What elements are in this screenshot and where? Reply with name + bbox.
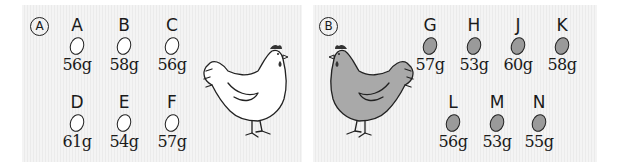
egg-weight: 61g	[55, 133, 99, 151]
brown-egg-icon	[489, 113, 505, 133]
brown-egg-icon	[422, 36, 438, 56]
white-egg-icon	[164, 36, 180, 56]
white-hen-icon	[196, 41, 296, 141]
egg-item: H 53g	[452, 17, 496, 74]
egg-letter: J	[496, 17, 540, 35]
egg-letter: A	[55, 17, 99, 35]
white-egg-icon	[69, 113, 85, 133]
egg-letter: C	[150, 17, 194, 35]
egg-item: L 56g	[431, 94, 475, 151]
egg-letter: B	[102, 17, 146, 35]
egg-letter: G	[408, 17, 452, 35]
egg-letter: L	[431, 94, 475, 112]
panel-b: B G 57g H 53g J 60g K 58g L 56g	[313, 5, 597, 162]
panel-a: A A 56g B 58g C 56g D 61g E 54g F 57g	[22, 5, 302, 162]
brown-egg-icon	[510, 36, 526, 56]
brown-egg-icon	[531, 113, 547, 133]
egg-item: N 55g	[517, 94, 561, 151]
egg-item: M 53g	[475, 94, 519, 151]
egg-weight: 54g	[102, 133, 146, 151]
egg-item: C 56g	[150, 17, 194, 74]
egg-weight: 56g	[431, 133, 475, 151]
white-egg-icon	[116, 36, 132, 56]
white-egg-icon	[69, 36, 85, 56]
gray-hen-icon	[321, 41, 421, 141]
egg-item: K 58g	[540, 17, 584, 74]
egg-item: B 58g	[102, 17, 146, 74]
egg-letter: F	[150, 94, 194, 112]
egg-weight: 53g	[475, 133, 519, 151]
egg-weight: 53g	[452, 56, 496, 74]
egg-item: D 61g	[55, 94, 99, 151]
egg-item: F 57g	[150, 94, 194, 151]
brown-egg-icon	[466, 36, 482, 56]
egg-letter: N	[517, 94, 561, 112]
egg-weight: 57g	[150, 133, 194, 151]
brown-egg-icon	[445, 113, 461, 133]
egg-weight: 55g	[517, 133, 561, 151]
brown-egg-icon	[554, 36, 570, 56]
egg-letter: K	[540, 17, 584, 35]
egg-letter: D	[55, 94, 99, 112]
egg-letter: H	[452, 17, 496, 35]
egg-weight: 57g	[408, 56, 452, 74]
panel-b-label: B	[319, 17, 338, 36]
egg-letter: M	[475, 94, 519, 112]
egg-item: J 60g	[496, 17, 540, 74]
egg-weight: 60g	[496, 56, 540, 74]
egg-weight: 58g	[102, 56, 146, 74]
egg-weight: 56g	[150, 56, 194, 74]
egg-item: A 56g	[55, 17, 99, 74]
panel-a-label: A	[30, 17, 49, 36]
egg-weight: 58g	[540, 56, 584, 74]
egg-weight: 56g	[55, 56, 99, 74]
white-egg-icon	[116, 113, 132, 133]
egg-item: E 54g	[102, 94, 146, 151]
egg-letter: E	[102, 94, 146, 112]
white-egg-icon	[164, 113, 180, 133]
egg-item: G 57g	[408, 17, 452, 74]
